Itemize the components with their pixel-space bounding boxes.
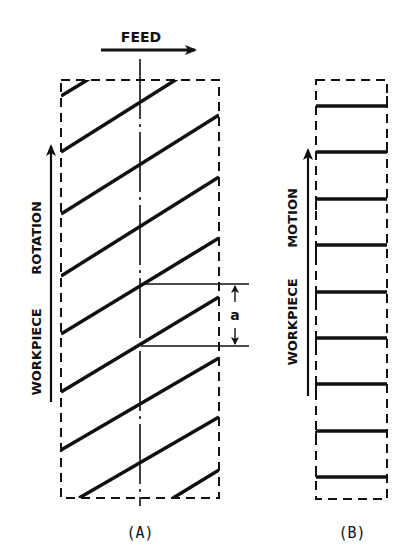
motion-label: MOTION xyxy=(285,188,300,248)
diagram-canvas: FEED a WORKPI xyxy=(0,0,420,560)
motion-side-label: WORKPIECE MOTION xyxy=(285,188,300,365)
feed-indicator: FEED xyxy=(101,29,195,50)
dimension-label: a xyxy=(230,307,239,323)
workpiece-label-a: WORKPIECE xyxy=(29,308,44,395)
panel-a-caption: (A) xyxy=(126,524,153,542)
circumferential-lines xyxy=(316,96,387,477)
workpiece-outline-b xyxy=(316,80,387,499)
rotation-label: ROTATION xyxy=(29,201,44,275)
rotation-side-label: WORKPIECE ROTATION xyxy=(29,201,44,395)
pitch-dimension: a xyxy=(141,284,249,346)
panel-a: a WORKPIECE ROTATION (A) xyxy=(29,59,249,542)
feed-label: FEED xyxy=(121,29,161,45)
panel-b: WORKPIECE MOTION (B) xyxy=(285,80,387,542)
workpiece-label-b: WORKPIECE xyxy=(285,278,300,365)
panel-b-caption: (B) xyxy=(338,524,365,542)
